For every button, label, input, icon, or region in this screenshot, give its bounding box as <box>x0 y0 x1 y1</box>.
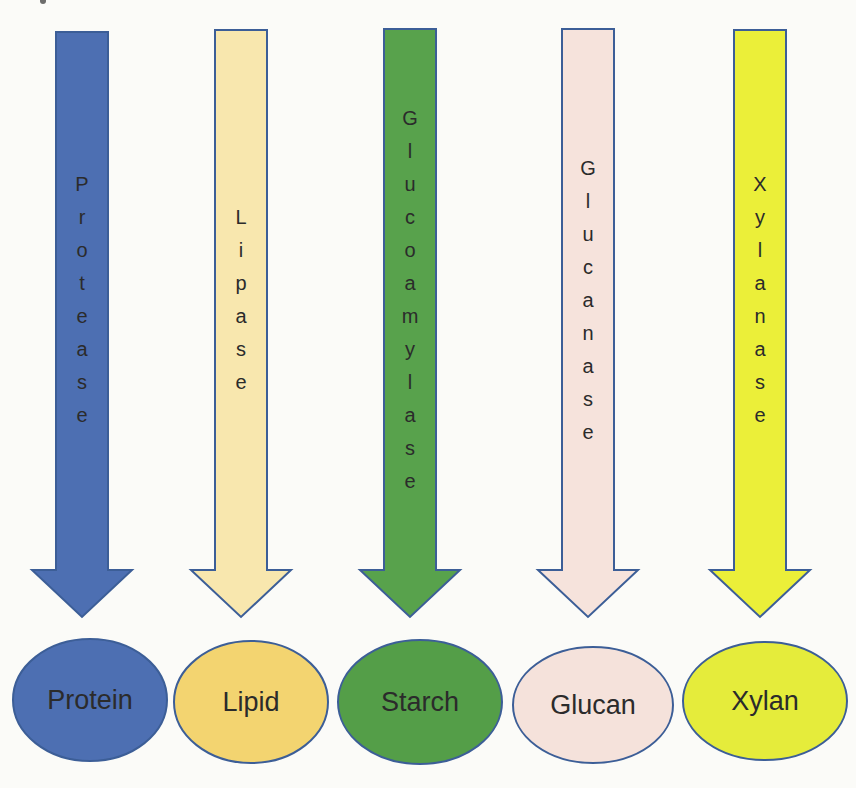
glucanase-arrow <box>538 29 638 617</box>
xylan-ellipse <box>683 642 847 760</box>
lipid-ellipse <box>174 641 328 763</box>
protein-ellipse <box>13 639 167 761</box>
protease-arrow <box>32 32 132 617</box>
glucoamylase-arrow <box>360 29 460 617</box>
xylanase-arrow <box>710 30 810 617</box>
enzyme-substrate-diagram: Protease Lipase Glucoamylase Glucanase X… <box>0 0 856 788</box>
starch-ellipse <box>338 640 502 764</box>
lipase-arrow <box>191 30 291 617</box>
glucan-ellipse <box>513 647 673 763</box>
diagram-shapes-layer <box>0 0 856 788</box>
